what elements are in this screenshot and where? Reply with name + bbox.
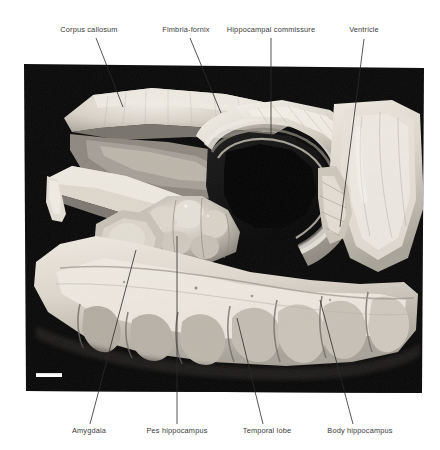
label-body-hippocampus: Body hippocampus: [327, 427, 392, 434]
label-temporal-lobe: Temporal lobe: [243, 427, 291, 434]
label-hippocampal-commissure: Hippocampal commissure: [227, 26, 315, 33]
figure-page: · ·· · ······ ··· ·· ·: [0, 0, 440, 450]
label-pes-hippocampus: Pes hippocampus: [147, 427, 208, 434]
photo-svg: [0, 0, 440, 450]
label-ventricle: Ventricle: [349, 26, 379, 33]
label-fimbria-fornix: Fimbria-fornix: [162, 26, 209, 33]
label-corpus-callosum: Corpus callosum: [60, 26, 117, 33]
film-grain: [24, 62, 424, 394]
specimen-group: [24, 62, 424, 394]
anatomical-photograph: [0, 0, 440, 450]
scale-bar-highlight: [36, 373, 62, 374]
label-amygdala: Amygdala: [72, 427, 106, 434]
